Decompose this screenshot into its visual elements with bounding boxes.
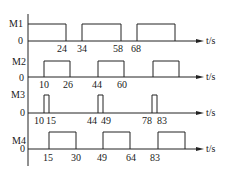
tick-label: 49: [97, 152, 107, 163]
pulse: [49, 132, 76, 149]
zero-label: 0: [18, 35, 23, 46]
tick-label: 34: [77, 43, 87, 54]
tick-label: 15: [46, 115, 56, 126]
pulse: [152, 95, 157, 113]
pulse: [98, 95, 103, 113]
tick-label: 49: [101, 115, 111, 126]
zero-label: 0: [19, 72, 24, 83]
pulse: [82, 24, 121, 41]
tick-label: 15: [43, 152, 53, 163]
timing-diagram: M1 0 t/s 24 34 58 68 M2 0 t/s 10 26 44 6…: [0, 0, 225, 172]
tick-label: 10: [39, 79, 49, 90]
arrow-icon: [196, 39, 204, 43]
signal-m4: M4 0 t/s 15 30 49 64 83: [12, 132, 216, 163]
pulse: [44, 95, 49, 113]
time-unit-label: t/s: [206, 71, 216, 82]
pulse: [158, 132, 185, 149]
pulse: [44, 61, 70, 77]
tick-label: 10: [34, 115, 44, 126]
arrow-icon: [196, 147, 204, 151]
tick-label: 30: [71, 152, 81, 163]
tick-label: 68: [131, 43, 141, 54]
pulse: [103, 132, 130, 149]
zero-label: 0: [20, 143, 25, 154]
pulse: [153, 61, 179, 77]
signal-m1: M1 0 t/s 24 34 58 68: [9, 18, 216, 54]
tick-label: 24: [57, 43, 67, 54]
pulse: [98, 61, 124, 77]
pulse: [28, 24, 66, 41]
tick-label: 44: [87, 115, 97, 126]
tick-label: 83: [150, 152, 160, 163]
tick-label: 58: [113, 43, 123, 54]
signal-label: M2: [12, 56, 26, 67]
pulse: [137, 24, 175, 41]
time-unit-label: t/s: [206, 107, 216, 118]
tick-label: 78: [142, 115, 152, 126]
arrow-icon: [196, 111, 204, 115]
time-unit-label: t/s: [206, 35, 216, 46]
tick-label: 83: [157, 115, 167, 126]
tick-label: 64: [126, 152, 136, 163]
signal-m3: M3 0 t/s 10 15 44 49 78 83: [11, 89, 216, 126]
signal-label: M1: [9, 18, 23, 29]
zero-label: 0: [20, 107, 25, 118]
signal-label: M3: [11, 89, 25, 100]
tick-label: 26: [63, 79, 73, 90]
tick-label: 44: [92, 79, 102, 90]
tick-label: 60: [117, 79, 127, 90]
time-unit-label: t/s: [206, 143, 216, 154]
signal-m2: M2 0 t/s 10 26 44 60: [12, 56, 216, 90]
arrow-icon: [196, 75, 204, 79]
